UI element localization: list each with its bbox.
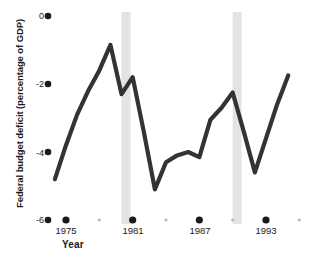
x-minor-tick-dot-1990 (231, 219, 234, 222)
y-tick-dot--6 (45, 217, 52, 224)
x-tick-dot-1993 (262, 216, 269, 223)
x-minor-tick-dot-1978 (98, 219, 101, 222)
x-minor-tick-dot-1984 (165, 219, 168, 222)
y-tick-marks-group (45, 13, 52, 224)
chart-container: Federal budget deficit (percentage of GD… (0, 0, 310, 265)
x-tick-dot-1987 (196, 216, 203, 223)
plot-area (0, 0, 310, 265)
x-tick-dot-1981 (129, 216, 136, 223)
deficit-line-series (55, 45, 288, 190)
x-minor-tick-dot-1996 (298, 219, 301, 222)
y-tick-dot--4 (45, 149, 52, 156)
x-tick-marks-group (62, 216, 300, 223)
y-tick-dot-0 (45, 13, 52, 20)
recession-band-1 (122, 12, 131, 224)
y-tick-dot--2 (45, 81, 52, 88)
x-tick-dot-1975 (62, 216, 69, 223)
